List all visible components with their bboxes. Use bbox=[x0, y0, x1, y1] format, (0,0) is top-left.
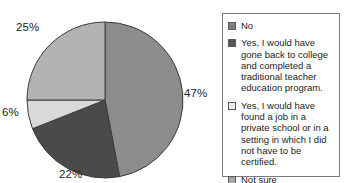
slice-label-back-to-college: 22% bbox=[59, 168, 82, 180]
chart-legend: No Yes, I would have gone back to colleg… bbox=[222, 13, 340, 177]
slice-label-not-sure: 25% bbox=[16, 21, 39, 33]
slice-label-private-school: 6% bbox=[2, 106, 19, 118]
slice-label-no: 47% bbox=[184, 87, 207, 99]
legend-swatch-icon-private-school bbox=[228, 102, 236, 110]
legend-item-no[interactable]: No bbox=[228, 20, 335, 31]
legend-item-back-to-college[interactable]: Yes, I would have gone back to college a… bbox=[228, 37, 335, 93]
legend-label-private-school: Yes, I would have found a job in a priva… bbox=[241, 100, 335, 168]
legend-item-private-school[interactable]: Yes, I would have found a job in a priva… bbox=[228, 100, 335, 168]
pie-plot-area: 47% 22% 6% 25% bbox=[0, 0, 212, 183]
legend-item-not-sure[interactable]: Not sure bbox=[228, 174, 335, 183]
legend-label-no: No bbox=[241, 20, 253, 31]
legend-swatch-icon-not-sure bbox=[228, 176, 236, 183]
legend-swatch-icon-no bbox=[228, 22, 236, 30]
pie-chart-figure: 47% 22% 6% 25% No Yes, I would have gone… bbox=[0, 0, 346, 183]
pie-slice-no[interactable] bbox=[105, 22, 183, 177]
legend-label-not-sure: Not sure bbox=[241, 174, 277, 183]
legend-label-back-to-college: Yes, I would have gone back to college a… bbox=[241, 37, 335, 93]
legend-swatch-icon-back-to-college bbox=[228, 39, 236, 47]
pie-slice-not-sure[interactable] bbox=[27, 22, 105, 100]
